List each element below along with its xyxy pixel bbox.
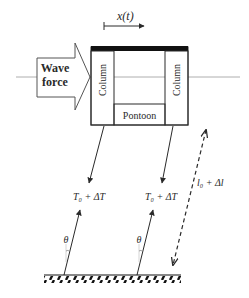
displacement-indicator: x(t) [104,9,144,30]
seabed [44,275,181,283]
left-angle-marker: θ [64,234,70,262]
left-column-label: Column [97,64,108,96]
displacement-label: x(t) [116,9,134,23]
seabed-hatch [44,276,181,283]
mooring-diagram: x(t) Wave force Column Column Pontoon T₀… [0,0,249,298]
right-mooring-upper-arrow [162,126,173,183]
wave-force-label-line1: Wave [41,61,70,75]
left-angle-label: θ [64,234,69,245]
left-mooring-upper-arrow [89,126,104,183]
platform-deck [91,46,188,51]
right-column-label: Column [171,64,182,96]
wave-force-arrow: Wave force [37,43,90,110]
line-length-dimension [173,130,206,265]
wave-force-label-line2: force [42,75,68,89]
pontoon-label: Pontoon [123,110,156,121]
right-angle-marker: θ [137,234,143,262]
line-length-label: l₀ + Δl [197,177,224,188]
platform: Column Column Pontoon [91,46,188,125]
left-tension-label: T₀ + ΔT [73,191,107,202]
right-tension-label: T₀ + ΔT [145,191,179,202]
right-angle-label: θ [137,234,142,245]
